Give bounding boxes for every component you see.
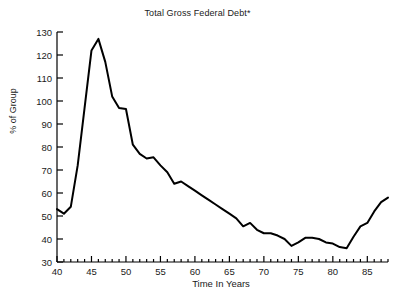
x-axis-tick-label: 60 [190,266,201,277]
y-axis-tick-label: 90 [41,119,52,130]
x-axis-tick-label: 85 [362,266,373,277]
plot-area: 30405060708090100110120130 4045505560657… [0,0,395,298]
x-axis-tick-group: 40455055606570758085 [52,256,388,277]
y-axis-tick-group: 30405060708090100110120130 [36,27,63,268]
y-axis-tick-label: 40 [41,234,52,245]
y-axis-tick-label: 60 [41,188,52,199]
x-axis-tick-label: 65 [224,266,235,277]
y-axis-tick-label: 80 [41,142,52,153]
x-axis-tick-label: 50 [121,266,132,277]
x-axis-tick-label: 70 [259,266,270,277]
y-axis-tick-label: 50 [41,211,52,222]
x-axis-tick-label: 55 [155,266,166,277]
y-axis-tick-label: 30 [41,257,52,268]
x-axis-tick-label: 40 [52,266,63,277]
y-axis-tick-label: 110 [37,73,52,84]
x-axis-tick-label: 75 [293,266,304,277]
y-axis-tick-label: 120 [36,50,52,61]
x-axis-tick-label: 80 [328,266,339,277]
y-axis-tick-label: 130 [36,27,52,38]
y-axis-tick-label: 70 [41,165,52,176]
chart-figure: Total Gross Federal Debt* % of Group Tim… [0,0,395,298]
data-series-line [57,39,388,248]
x-axis-tick-label: 45 [86,266,97,277]
y-axis-tick-label: 100 [36,96,52,107]
